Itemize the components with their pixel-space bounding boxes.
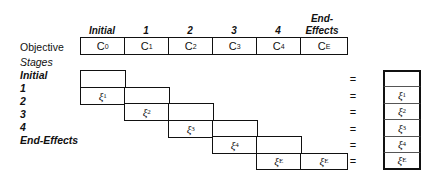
stage-label-initial: Initial	[20, 69, 47, 81]
stage-label-2: 2	[20, 95, 26, 107]
objective-label: Objective	[20, 41, 64, 53]
objective-cell-4: C4	[256, 37, 302, 55]
cell-subscript: E	[402, 156, 406, 164]
matrix-cell-r1-c1	[124, 87, 170, 105]
objective-cell-0: C0	[80, 37, 126, 55]
matrix-cell-r4-c3: ξ4	[212, 136, 258, 154]
cell-text: C	[273, 40, 281, 52]
matrix-cell-r5-c4: ξE	[256, 153, 302, 170]
rhs-cell-0	[383, 70, 421, 87]
cell-text: C	[229, 40, 237, 52]
cell-subscript: 2	[193, 43, 197, 50]
cell-text: C	[318, 40, 326, 52]
matrix-cell-r3-c2: ξ3	[168, 120, 214, 138]
equals-sign-4: =	[348, 139, 358, 151]
rhs-cell-1: ξ1	[383, 87, 421, 104]
cell-subscript: 1	[149, 43, 153, 50]
equals-sign-0: =	[348, 73, 358, 85]
cell-subscript: E	[326, 43, 331, 50]
objective-cell-1: C1	[124, 37, 170, 55]
cell-subscript: 4	[403, 140, 407, 148]
matrix-cell-r1-c0: ξ1	[80, 87, 126, 105]
header-end-effects-line1: End-	[300, 13, 344, 24]
cell-text: C	[141, 40, 149, 52]
objective-cell-2: C2	[168, 37, 214, 55]
matrix-cell-r2-c1: ξ2	[124, 103, 170, 121]
cell-text: C	[97, 40, 105, 52]
cell-subscript: E	[279, 157, 283, 165]
cell-subscript: E	[324, 157, 328, 165]
cell-subscript: 4	[281, 43, 285, 50]
cell-subscript: 3	[237, 43, 241, 50]
stage-label-end-effects: End-Effects	[20, 134, 78, 146]
cell-subscript: 3	[191, 125, 195, 133]
equals-sign-1: =	[348, 90, 358, 102]
cell-text: C	[185, 40, 193, 52]
matrix-cell-r5-c5: ξE	[300, 153, 348, 170]
header-end-effects-line2: Effects	[300, 25, 344, 36]
equals-sign-3: =	[348, 123, 358, 135]
equals-sign-2: =	[348, 106, 358, 118]
rhs-cell-4: ξ4	[383, 137, 421, 154]
equals-sign-5: =	[348, 155, 358, 167]
header-stage-1: 1	[124, 25, 168, 36]
rhs-cell-2: ξ2	[383, 104, 421, 121]
header-stage-4: 4	[256, 25, 300, 36]
stage-label-4: 4	[20, 121, 26, 133]
objective-cell-end: CE	[300, 37, 348, 55]
header-stage-2: 2	[168, 25, 212, 36]
stages-label: Stages	[20, 56, 53, 68]
matrix-cell-r0-c0	[80, 70, 126, 88]
cell-subscript: 0	[105, 43, 109, 50]
header-initial: Initial	[80, 25, 124, 36]
cell-subscript: 1	[103, 92, 107, 100]
matrix-cell-r4-c4	[256, 136, 302, 154]
cell-subscript: 3	[403, 124, 407, 132]
matrix-cell-r2-c2	[168, 103, 214, 121]
rhs-cell-5: ξE	[383, 153, 421, 170]
cell-subscript: 2	[403, 107, 407, 115]
stage-label-3: 3	[20, 108, 26, 120]
matrix-cell-r3-c3	[212, 120, 258, 138]
stage-label-1: 1	[20, 82, 26, 94]
cell-subscript: 2	[147, 108, 151, 116]
rhs-cell-3: ξ3	[383, 120, 421, 137]
objective-cell-3: C3	[212, 37, 258, 55]
cell-subscript: 4	[235, 141, 239, 149]
cell-subscript: 1	[403, 91, 407, 99]
header-stage-3: 3	[212, 25, 256, 36]
